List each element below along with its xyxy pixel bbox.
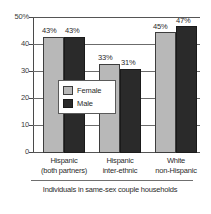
x-label-line-1: Hispanic <box>33 156 95 166</box>
bar-female-white-non-hispanic <box>155 32 176 153</box>
y-tick-label-40: 40 <box>1 40 29 48</box>
y-tick-label-10: 10 <box>1 121 29 129</box>
x-label-line-1: White <box>145 156 207 166</box>
bar-value-female-hispanic-inter-ethnic: 33% <box>98 53 112 62</box>
chart-caption: Individuals in same-sex couple household… <box>15 185 205 195</box>
legend-swatch-male-icon <box>63 99 73 108</box>
x-label-hispanic-both-partners: Hispanic (both partners) <box>33 156 95 175</box>
legend-item-male: Male <box>63 97 111 110</box>
x-label-line-2: non-Hispanic <box>145 166 207 176</box>
bar-value-male-hispanic-inter-ethnic: 31% <box>121 58 135 67</box>
bar-value-female-hispanic-both-partners: 43% <box>42 26 56 35</box>
bar-male-hispanic-inter-ethnic <box>120 69 141 153</box>
x-label-hispanic-inter-ethnic: Hispanic inter-ethnic <box>89 156 151 175</box>
y-tick-label-50: 50% <box>1 13 29 21</box>
bar-value-male-hispanic-both-partners: 43% <box>65 26 79 35</box>
x-label-line-2: inter-ethnic <box>89 166 151 176</box>
x-label-line-1: Hispanic <box>89 156 151 166</box>
bar-male-white-non-hispanic <box>176 26 197 153</box>
caption-divider <box>31 180 193 181</box>
bar-chart: 50% 40 30 20 10 0 <box>0 0 211 214</box>
y-tick-label-20: 20 <box>1 94 29 102</box>
legend-item-female: Female <box>63 84 111 97</box>
legend-label-male: Male <box>77 99 93 108</box>
x-axis: Hispanic (both partners) Hispanic inter-… <box>33 156 200 178</box>
x-label-white-non-hispanic: White non-Hispanic <box>145 156 207 175</box>
y-tick-label-30: 30 <box>1 67 29 75</box>
bar-value-female-white-non-hispanic: 45% <box>153 22 167 31</box>
bar-group-white-non-hispanic: 45% 47% <box>155 17 197 153</box>
x-label-line-2: (both partners) <box>33 166 95 176</box>
y-tick-label-0: 0 <box>1 148 29 156</box>
bar-value-male-white-non-hispanic: 47% <box>176 16 190 25</box>
legend: Female Male <box>58 80 116 114</box>
legend-swatch-female-icon <box>63 86 73 95</box>
legend-label-female: Female <box>77 86 101 95</box>
